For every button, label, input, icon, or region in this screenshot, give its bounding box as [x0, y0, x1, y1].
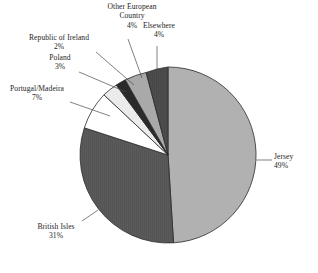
slice-label-republic-of-ireland: Republic of Ireland 2%	[22, 33, 96, 52]
slice-label-portugal-madeira: Portugal/Madeira 7%	[3, 84, 71, 103]
label-percent: 2%	[22, 42, 96, 51]
label-text-line1: Jersey	[274, 152, 316, 161]
pie-slices	[80, 67, 256, 243]
label-text-line1: Republic of Ireland	[22, 33, 96, 42]
label-text-line2: Country	[86, 11, 178, 20]
leader-line-poland	[79, 72, 126, 92]
leader-line-other-european-country	[128, 39, 142, 78]
pie-chart: Other European Country 4% Elsewhere 4% R…	[0, 0, 318, 273]
slice-label-elsewhere: Elsewhere 4%	[128, 21, 190, 40]
slice-label-british-isles: British Isles 31%	[29, 222, 83, 241]
label-text-line1: Portugal/Madeira	[3, 84, 71, 93]
slice-label-jersey: Jersey 49%	[274, 152, 316, 171]
label-percent: 31%	[29, 231, 83, 240]
leader-line-british-isles	[82, 210, 98, 221]
label-percent: 4%	[128, 30, 190, 39]
label-text-line1: Poland	[38, 53, 82, 62]
label-percent: 3%	[38, 62, 82, 71]
label-percent: 7%	[3, 93, 71, 102]
slice-label-poland: Poland 3%	[38, 53, 82, 72]
label-text-line1: Other European	[86, 2, 178, 11]
label-text-line1: British Isles	[29, 222, 83, 231]
pie-slice-jersey[interactable]	[168, 67, 256, 243]
leader-line-republic-of-ireland	[96, 52, 134, 85]
label-percent: 49%	[274, 161, 316, 170]
label-text-line1: Elsewhere	[128, 21, 190, 30]
